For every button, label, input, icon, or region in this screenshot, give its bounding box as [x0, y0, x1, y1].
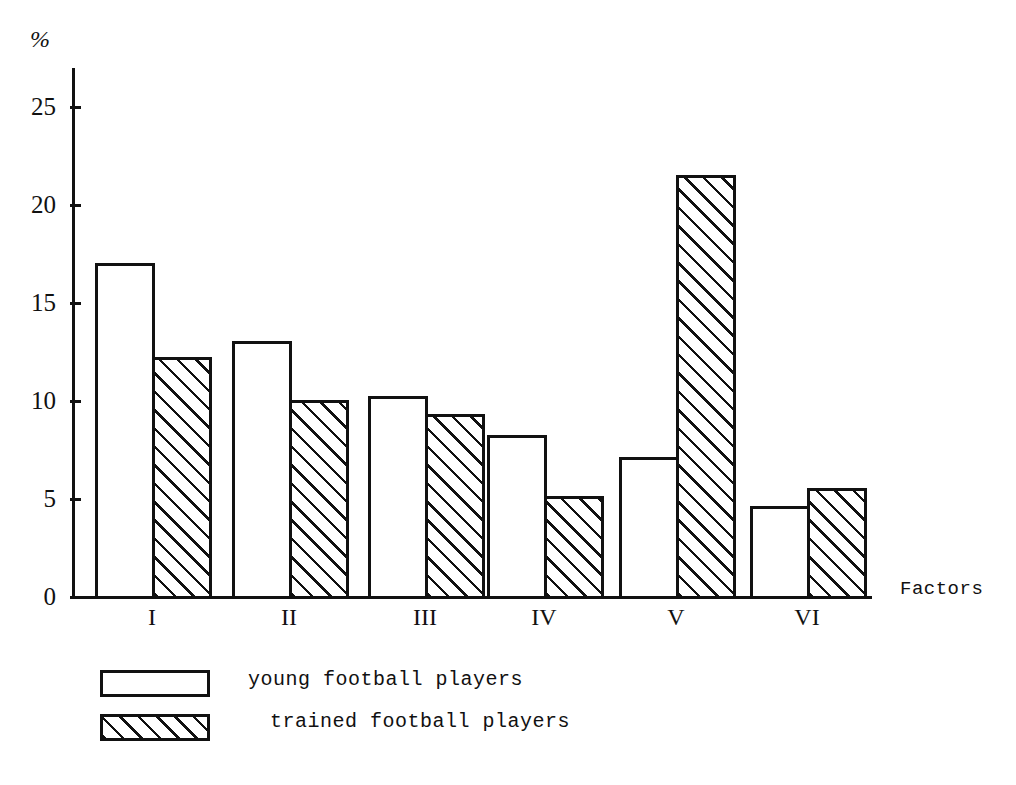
x-tick-label-I: I [148, 604, 156, 631]
y-tick-label-20: 20 [12, 192, 56, 217]
legend-row-trained: trained football players [100, 706, 720, 744]
bar-V-young [619, 457, 679, 599]
y-tick-label-25: 25 [12, 94, 56, 119]
y-axis-line [72, 68, 75, 599]
y-tick-5 [70, 498, 81, 501]
bar-IV-trained [544, 496, 604, 599]
bar-III-young [368, 396, 428, 599]
legend-swatch-hatched [100, 714, 210, 741]
bar-III-trained [425, 414, 485, 599]
x-tick-label-III: III [413, 604, 437, 631]
y-tick-10 [70, 400, 81, 403]
y-tick-0 [70, 596, 81, 599]
bar-chart: % 25 20 15 10 5 0 IIIIIIIVVVI Factors yo… [0, 0, 1016, 785]
legend-label-young: young football players [248, 668, 523, 691]
bar-I-trained [152, 357, 212, 599]
bar-V-trained [676, 175, 736, 599]
y-tick-25 [70, 106, 81, 109]
x-tick-label-VI: VI [794, 604, 819, 631]
y-tick-label-5: 5 [12, 486, 56, 511]
y-tick-label-0: 0 [12, 584, 56, 609]
legend-swatch-white [100, 670, 210, 697]
bar-VI-young [750, 506, 810, 599]
y-tick-20 [70, 204, 81, 207]
x-tick-label-IV: IV [531, 604, 556, 631]
legend-label-trained: trained football players [270, 710, 570, 733]
legend-row-young: young football players [100, 668, 720, 706]
bar-IV-young [487, 435, 547, 599]
bar-I-young [95, 263, 155, 599]
bar-VI-trained [807, 488, 867, 599]
y-tick-15 [70, 302, 81, 305]
x-axis-title: Factors [900, 578, 983, 600]
y-tick-label-15: 15 [12, 290, 56, 315]
x-tick-label-V: V [667, 604, 684, 631]
y-axis-unit-label: % [30, 26, 50, 53]
x-tick-label-II: II [281, 604, 297, 631]
bar-II-young [232, 341, 292, 599]
legend: young football players trained football … [100, 668, 720, 744]
bar-II-trained [289, 400, 349, 599]
y-tick-label-10: 10 [12, 388, 56, 413]
